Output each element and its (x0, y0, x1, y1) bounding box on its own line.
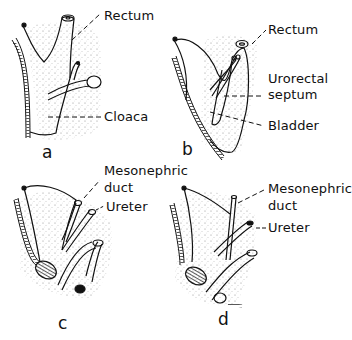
label-mesonephric-c-line1: Mesonephric (104, 164, 188, 178)
panel-d-drawing (170, 186, 266, 306)
label-urorectal-b-line1: Urorectal (268, 72, 328, 86)
panel-letter-b: b (182, 139, 193, 159)
label-mesonephric-d-line2: duct (268, 199, 297, 213)
panel-c-drawing (14, 180, 112, 298)
label-rectum-a: Rectum (104, 9, 154, 23)
label-bladder-b: Bladder (268, 119, 319, 133)
label-mesonephric-d-line1: Mesonephric (268, 182, 352, 196)
panel-a-drawing (12, 14, 102, 140)
label-mesonephric-c-line2: duct (104, 181, 133, 195)
panel-letter-a: a (42, 142, 52, 162)
panel-letter-c: c (58, 313, 67, 333)
label-cloaca-a: Cloaca (104, 110, 148, 124)
label-ureter-d: Ureter (268, 221, 310, 235)
label-rectum-b: Rectum (268, 23, 318, 37)
label-ureter-c: Ureter (106, 200, 148, 214)
panel-letter-d: d (218, 309, 229, 329)
label-urorectal-b-line2: septum (268, 88, 318, 102)
